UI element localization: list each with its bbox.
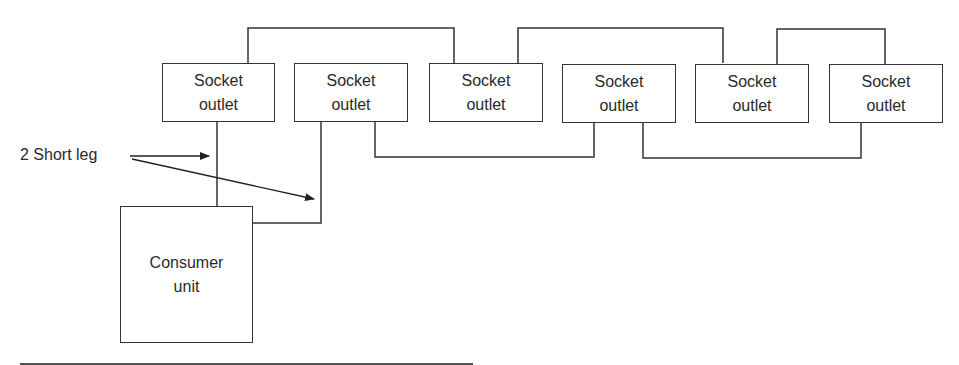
consumer-unit: Consumer unit [120, 206, 253, 343]
socket-outlet-1-line1: Socket [194, 69, 243, 93]
socket-outlet-1: Socket outlet [162, 63, 275, 122]
socket-outlet-3-line1: Socket [462, 69, 511, 93]
consumer-unit-line2: unit [174, 275, 200, 299]
socket-outlet-2-line2: outlet [331, 93, 370, 117]
socket-outlet-5-line1: Socket [728, 70, 777, 94]
socket-outlet-5: Socket outlet [695, 64, 809, 123]
socket-outlet-6: Socket outlet [829, 64, 943, 123]
socket-outlet-6-line2: outlet [866, 94, 905, 118]
socket-outlet-1-line2: outlet [199, 93, 238, 117]
socket-outlet-4-line2: outlet [599, 94, 638, 118]
socket-outlet-6-line1: Socket [862, 70, 911, 94]
short-leg-annotation: 2 Short leg [20, 146, 97, 164]
socket-outlet-2-line1: Socket [327, 69, 376, 93]
socket-outlet-3: Socket outlet [429, 63, 543, 122]
cable-s5-s6 [777, 29, 885, 64]
socket-outlet-4-line1: Socket [595, 70, 644, 94]
arrow-icon-short-leg-2 [132, 159, 314, 199]
consumer-unit-line1: Consumer [150, 251, 224, 275]
short-leg-s2 [252, 121, 321, 223]
cable-s2-s4 [375, 121, 594, 157]
cable-s4-s6 [643, 121, 861, 158]
socket-outlet-3-line2: outlet [466, 93, 505, 117]
socket-outlet-4: Socket outlet [562, 64, 676, 123]
cable-s1-s3 [248, 28, 454, 63]
socket-outlet-5-line2: outlet [732, 94, 771, 118]
cable-s3-s5 [518, 28, 723, 63]
socket-outlet-2: Socket outlet [294, 63, 408, 122]
